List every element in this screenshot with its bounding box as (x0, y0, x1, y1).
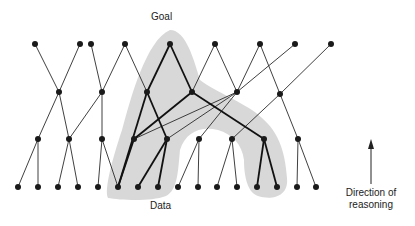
node (328, 41, 334, 47)
node (261, 136, 267, 142)
node (88, 41, 94, 47)
node (164, 136, 170, 142)
data-node (35, 184, 41, 190)
data-label: Data (150, 200, 171, 212)
node (122, 41, 128, 47)
node (295, 136, 301, 142)
data-node (274, 184, 280, 190)
data-node (155, 184, 161, 190)
node (66, 136, 72, 142)
data-node (95, 184, 101, 190)
data-node (115, 184, 121, 190)
node (77, 41, 83, 47)
data-node (294, 184, 300, 190)
data-node (234, 184, 240, 190)
data-node (313, 184, 319, 190)
data-node (55, 184, 61, 190)
node (144, 89, 150, 95)
direction-of-reasoning-label: Direction of reasoning (331, 187, 411, 211)
data-node (75, 184, 81, 190)
data-node (195, 184, 201, 190)
node (234, 89, 240, 95)
node (212, 41, 218, 47)
goal-label: Goal (151, 11, 172, 23)
data-node (135, 184, 141, 190)
node (131, 136, 137, 142)
node (99, 89, 105, 95)
node (292, 41, 298, 47)
direction-arrow-icon (368, 139, 374, 184)
node (229, 136, 235, 142)
data-node (175, 184, 181, 190)
direction-label-line1: Direction of (331, 187, 411, 199)
node (189, 89, 195, 95)
node (56, 89, 62, 95)
goal-node (167, 41, 173, 47)
highlight-region (107, 30, 287, 200)
node (99, 136, 105, 142)
node (35, 136, 41, 142)
data-node (15, 184, 21, 190)
data-node (254, 184, 260, 190)
node (277, 91, 283, 97)
direction-label-line2: reasoning (331, 199, 411, 211)
node (32, 41, 38, 47)
data-node (214, 184, 220, 190)
node (257, 41, 263, 47)
node (196, 136, 202, 142)
